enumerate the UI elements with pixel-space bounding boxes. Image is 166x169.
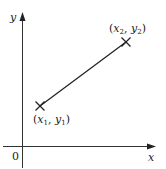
y-axis-arrow-icon bbox=[20, 12, 26, 21]
origin-label: 0 bbox=[12, 151, 19, 162]
line-segment-diagram: y x 0 (x1, y1) (x2, y2) bbox=[0, 0, 166, 169]
y-axis-label: y bbox=[10, 12, 16, 23]
separator: , bbox=[48, 113, 55, 126]
x-axis-arrow-icon bbox=[147, 144, 156, 150]
x-axis-label: x bbox=[148, 152, 154, 163]
point-1-label: (x1, y1) bbox=[33, 114, 70, 127]
point-2-cross-icon bbox=[122, 38, 131, 47]
point-2-label: (x2, y2) bbox=[109, 23, 146, 36]
point-1-cross-icon bbox=[36, 102, 45, 111]
paren-close: ) bbox=[66, 113, 70, 126]
paren-close: ) bbox=[142, 22, 146, 35]
line-segment bbox=[40, 42, 126, 106]
separator: , bbox=[124, 22, 131, 35]
